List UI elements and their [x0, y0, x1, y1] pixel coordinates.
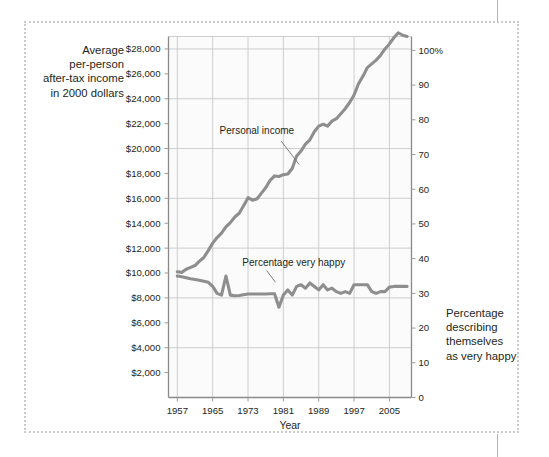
- x-tick-label: 1997: [343, 405, 364, 416]
- y-tick-label-left: $8,000: [131, 292, 160, 303]
- y-tick-label-right: 30: [419, 288, 430, 299]
- x-axis-title: Year: [279, 419, 301, 431]
- y-tick-label-left: $2,000: [131, 367, 160, 378]
- y-tick-label-right: 70: [419, 149, 430, 160]
- x-tick-label: 1965: [202, 405, 223, 416]
- y-tick-label-left: $18,000: [126, 168, 161, 179]
- x-tick-label: 1989: [308, 405, 329, 416]
- x-tick-label: 1957: [167, 405, 188, 416]
- x-tick-label: 1981: [273, 405, 294, 416]
- y-tick-label-left: $12,000: [126, 243, 161, 254]
- y-tick-label-right: 40: [419, 253, 430, 264]
- annotation-personal-income: Personal income: [220, 125, 295, 136]
- y-tick-label-left: $28,000: [126, 43, 161, 54]
- y-tick-label-left: $24,000: [126, 93, 161, 104]
- y-tick-label-left: $22,000: [126, 118, 161, 129]
- y-tick-label-left: $20,000: [126, 143, 161, 154]
- y-tick-label-right: 60: [419, 184, 430, 195]
- dual-axis-line-chart: $2,000$4,000$6,000$8,000$10,000$12,000$1…: [0, 0, 549, 457]
- y-tick-label-right: 0: [419, 392, 424, 403]
- y-tick-label-left: $10,000: [126, 267, 161, 278]
- y-axis-right-ticks: 0102030405060708090100%: [412, 45, 444, 403]
- y-tick-label-right: 100%: [419, 45, 444, 56]
- y-tick-label-left: $14,000: [126, 218, 161, 229]
- x-axis-ticks: 1957196519731981198919972005: [167, 398, 400, 416]
- chart-container: $2,000$4,000$6,000$8,000$10,000$12,000$1…: [0, 0, 549, 457]
- y-tick-label-right: 90: [419, 79, 430, 90]
- x-tick-label: 1973: [237, 405, 258, 416]
- y-tick-label-right: 20: [419, 322, 430, 333]
- y-tick-label-left: $4,000: [131, 342, 160, 353]
- y-tick-label-left: $6,000: [131, 317, 160, 328]
- x-axis-title-text: Year: [279, 419, 301, 431]
- y-tick-label-right: 10: [419, 357, 430, 368]
- y-tick-label-right: 80: [419, 114, 430, 125]
- x-tick-label: 2005: [379, 405, 400, 416]
- y-tick-label-left: $16,000: [126, 193, 161, 204]
- plot-background: [169, 37, 412, 398]
- y-tick-label-right: 50: [419, 218, 430, 229]
- y-axis-left-ticks: $2,000$4,000$6,000$8,000$10,000$12,000$1…: [126, 43, 169, 378]
- y-tick-label-left: $26,000: [126, 68, 161, 79]
- annotation-percentage-very-happy: Percentage very happy: [242, 257, 345, 268]
